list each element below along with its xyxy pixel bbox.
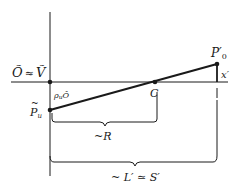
point-c-label: C: [150, 87, 159, 100]
point-p0-label: P′0: [210, 46, 227, 61]
origin-point: [48, 80, 53, 85]
point-pu-label: Pu: [29, 106, 42, 120]
offset-label: x′: [221, 69, 230, 80]
ray-line: [50, 64, 217, 110]
brace-l: [50, 100, 217, 166]
brace-r-label: ~R: [94, 130, 112, 143]
diagram-canvas: Õ≈Ṽ ρuÔ Pu ~ C P′0 x′ ~R ~ L′ ≃ S′: [0, 0, 246, 191]
point-pu: [48, 108, 53, 113]
point-c: [153, 80, 158, 85]
brace-l-label: ~ L′ ≃ S′: [111, 171, 160, 184]
origin-label: Õ≈Ṽ: [12, 65, 47, 80]
point-p0: [215, 62, 220, 67]
angle-label: ρuÔ: [53, 91, 70, 100]
point-pu-tilde: ~: [31, 98, 39, 108]
